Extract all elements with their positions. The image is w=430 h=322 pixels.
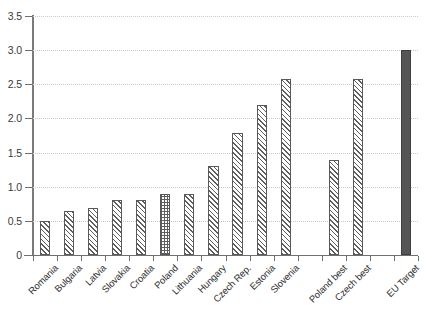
x-axis-tick <box>322 256 323 261</box>
bar <box>401 50 411 255</box>
x-axis-tick-label: EU Target <box>385 263 421 299</box>
bar <box>64 211 74 255</box>
bar <box>160 194 170 255</box>
x-axis-tick <box>177 256 178 261</box>
x-axis-tick <box>274 256 275 261</box>
plot-area <box>33 16 418 255</box>
bar <box>281 79 291 255</box>
bar <box>208 166 218 255</box>
y-axis-tick <box>25 153 32 154</box>
gridline <box>33 50 418 51</box>
y-axis-tick <box>25 255 32 256</box>
x-axis-tick <box>298 256 299 261</box>
x-axis-tick <box>201 256 202 261</box>
x-axis-tick <box>57 256 58 261</box>
x-axis-tick <box>346 256 347 261</box>
bar <box>257 105 267 255</box>
y-axis-tick-label: 0.5 <box>0 216 22 227</box>
bar <box>136 200 146 255</box>
x-axis-tick-label: Romania <box>27 263 60 296</box>
y-axis-tick <box>25 187 32 188</box>
gridline <box>33 16 418 17</box>
x-axis-tick-label: Croatia <box>128 263 156 291</box>
y-axis-tick-label: 3.5 <box>0 11 22 22</box>
x-axis-line <box>24 255 418 256</box>
x-axis-tick <box>226 256 227 261</box>
x-axis-tick <box>153 256 154 261</box>
y-axis-tick <box>25 84 32 85</box>
y-axis-tick-label: 0 <box>0 250 22 261</box>
bar <box>40 221 50 255</box>
y-axis-tick <box>25 50 32 51</box>
x-axis-tick <box>105 256 106 261</box>
y-axis-tick-label: 2.5 <box>0 79 22 90</box>
x-axis-tick <box>370 256 371 261</box>
bar <box>353 79 363 255</box>
y-axis-tick-label: 1.0 <box>0 182 22 193</box>
bar <box>232 133 242 255</box>
bar-chart: 00.51.01.52.02.53.03.5 RomaniaBulgariaLa… <box>0 0 430 322</box>
bar <box>184 194 194 255</box>
y-axis-tick <box>25 118 32 119</box>
bar <box>112 200 122 255</box>
y-axis-tick-label: 1.5 <box>0 148 22 159</box>
x-axis-tick <box>250 256 251 261</box>
x-axis-tick <box>394 256 395 261</box>
y-axis-tick <box>25 221 32 222</box>
x-axis-tick <box>129 256 130 261</box>
x-axis-tick <box>418 256 419 261</box>
bar <box>88 208 98 255</box>
y-axis-tick-label: 3.0 <box>0 45 22 56</box>
y-axis-tick-label: 2.0 <box>0 113 22 124</box>
bar <box>329 160 339 255</box>
y-axis-tick <box>25 16 32 17</box>
x-axis-tick <box>81 256 82 261</box>
x-axis-tick <box>33 256 34 261</box>
